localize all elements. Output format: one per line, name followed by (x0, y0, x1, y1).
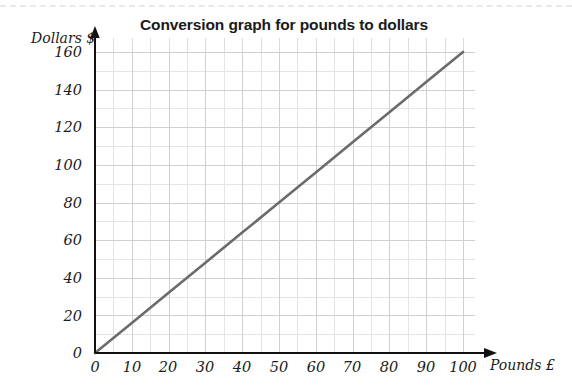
y-tick-label-0: 0 (18, 346, 82, 361)
x-tick-label-80: 80 (369, 360, 409, 375)
y-tick-label-80: 80 (18, 196, 82, 211)
axes-layer (0, 0, 572, 389)
y-tick-label-40: 40 (18, 271, 82, 286)
x-tick-label-10: 10 (112, 360, 152, 375)
x-tick-label-30: 30 (185, 360, 225, 375)
y-tick-label-140: 140 (18, 83, 82, 98)
x-tick-label-90: 90 (406, 360, 446, 375)
y-tick-label-120: 120 (18, 120, 82, 135)
x-tick-label-100: 100 (443, 360, 483, 375)
x-tick-label-70: 70 (332, 360, 372, 375)
y-tick-label-60: 60 (18, 233, 82, 248)
y-tick-label-20: 20 (18, 309, 82, 324)
x-axis-title: Pounds £ (490, 358, 555, 372)
y-axis-title: Dollars $ (31, 31, 95, 45)
y-tick-label-160: 160 (18, 45, 82, 60)
y-tick-label-100: 100 (18, 158, 82, 173)
x-tick-label-20: 20 (148, 360, 188, 375)
x-tick-label-50: 50 (259, 360, 299, 375)
conversion-line-chart: Conversion graph for pounds to dollars 1… (0, 0, 572, 389)
x-tick-label-0: 0 (75, 360, 115, 375)
x-tick-label-60: 60 (296, 360, 336, 375)
x-tick-label-40: 40 (222, 360, 262, 375)
